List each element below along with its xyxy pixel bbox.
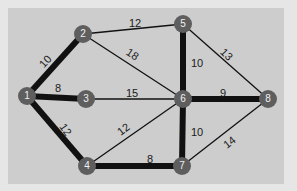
node-label: 8 (265, 93, 271, 104)
edge-weight-label: 18 (124, 46, 141, 63)
edge-1-4 (27, 96, 87, 166)
node-6: 6 (174, 90, 192, 108)
edge-weight-label: 10 (191, 126, 203, 138)
node-1: 1 (18, 87, 36, 105)
node-label: 2 (80, 28, 86, 39)
node-2: 2 (74, 25, 92, 43)
node-8: 8 (259, 90, 277, 108)
edge-weight-label: 12 (115, 121, 132, 138)
edge-weight-label: 12 (129, 17, 141, 29)
node-label: 6 (180, 93, 186, 104)
edge-weight-label: 15 (126, 87, 138, 99)
node-label: 4 (84, 160, 90, 171)
edge-4-6 (87, 99, 183, 166)
edge-weight-label: 8 (55, 82, 61, 94)
node-label: 3 (83, 93, 89, 104)
edge-6-7 (182, 99, 183, 166)
edges-layer: 10812121815128101391014 (27, 17, 268, 166)
node-3: 3 (77, 90, 95, 108)
node-label: 1 (24, 90, 30, 101)
node-label: 5 (180, 18, 186, 29)
node-7: 7 (173, 157, 191, 175)
weighted-graph: 10812121815128101391014 12345678 (0, 0, 297, 191)
edge-weight-label: 8 (147, 153, 153, 165)
edge-weight-label: 14 (221, 134, 238, 151)
edge-weight-label: 9 (220, 87, 226, 99)
node-5: 5 (174, 15, 192, 33)
edge-weight-label: 13 (218, 46, 235, 63)
node-4: 4 (78, 157, 96, 175)
node-label: 7 (179, 160, 185, 171)
edge-weight-label: 10 (191, 57, 203, 69)
